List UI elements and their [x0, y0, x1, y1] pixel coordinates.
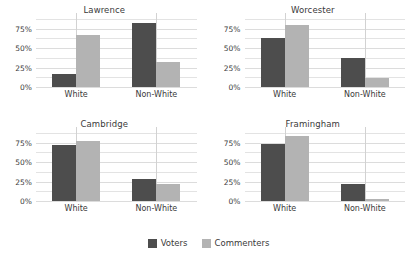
x-tick-label: Non-White: [344, 90, 386, 99]
bars: [245, 133, 406, 201]
bar-voters-white: [52, 74, 76, 87]
y-tick-label: 0%: [20, 197, 32, 206]
bar-voters-non-white: [132, 23, 156, 87]
bar-voters-non-white: [341, 184, 365, 201]
y-tick-label: 0%: [229, 197, 241, 206]
y-tick-label: 25%: [224, 177, 241, 186]
facet-cambridge: Cambridge0%25%50%75%WhiteNon-White: [0, 114, 209, 228]
plot-area: [36, 19, 197, 87]
bars: [36, 133, 197, 201]
y-tick-label: 50%: [224, 158, 241, 167]
y-axis: 0%25%50%75%: [209, 133, 241, 201]
gridline: [245, 201, 406, 202]
facet-title: Worcester: [209, 5, 417, 15]
bar-commenters-non-white: [365, 78, 389, 87]
y-axis: 0%25%50%75%: [209, 19, 241, 87]
y-tick-label: 50%: [224, 44, 241, 53]
x-tick-label: White: [273, 90, 296, 99]
facet-framingham: Framingham0%25%50%75%WhiteNon-White: [209, 114, 417, 228]
bar-voters-white: [261, 144, 285, 202]
x-tick-label: Non-White: [135, 90, 177, 99]
legend-label: Commenters: [215, 238, 270, 248]
y-axis: 0%25%50%75%: [0, 19, 32, 87]
legend-swatch-voters: [148, 239, 157, 248]
facet-worcester: Worcester0%25%50%75%WhiteNon-White: [209, 0, 417, 114]
bar-commenters-non-white: [365, 199, 389, 201]
legend-item-commenters: Commenters: [202, 238, 270, 248]
facet-title: Cambridge: [0, 119, 209, 129]
legend-item-voters: Voters: [148, 238, 188, 248]
category-separator: [365, 127, 366, 201]
bar-commenters-white: [285, 136, 309, 201]
legend-swatch-commenters: [202, 239, 211, 248]
bar-commenters-white: [285, 25, 309, 87]
facet-title: Lawrence: [0, 5, 209, 15]
y-tick-label: 75%: [15, 24, 32, 33]
bars: [36, 19, 197, 87]
bar-voters-non-white: [341, 58, 365, 87]
legend-label: Voters: [161, 238, 188, 248]
gridline: [36, 201, 197, 202]
bar-voters-white: [261, 38, 285, 87]
gridline: [36, 87, 197, 88]
y-tick-label: 25%: [15, 63, 32, 72]
bar-commenters-non-white: [156, 184, 180, 201]
bar-commenters-white: [76, 141, 100, 201]
x-tick-label: White: [273, 204, 296, 213]
y-axis: 0%25%50%75%: [0, 133, 32, 201]
y-tick-label: 50%: [15, 158, 32, 167]
y-tick-label: 0%: [20, 83, 32, 92]
x-tick-label: White: [64, 90, 87, 99]
y-tick-label: 75%: [224, 24, 241, 33]
plot-area: [245, 19, 406, 87]
y-tick-label: 25%: [15, 177, 32, 186]
y-tick-label: 50%: [15, 44, 32, 53]
y-tick-label: 75%: [15, 138, 32, 147]
facet-grid: Lawrence0%25%50%75%WhiteNon-WhiteWorcest…: [0, 0, 417, 228]
x-tick-label: Non-White: [344, 204, 386, 213]
y-tick-label: 75%: [224, 138, 241, 147]
x-tick-label: White: [64, 204, 87, 213]
bar-voters-white: [52, 145, 76, 201]
faceted-bar-chart: Lawrence0%25%50%75%WhiteNon-WhiteWorcest…: [0, 0, 417, 254]
category-separator: [365, 13, 366, 87]
y-tick-label: 0%: [229, 83, 241, 92]
bar-commenters-non-white: [156, 62, 180, 87]
bar-commenters-white: [76, 35, 100, 87]
bar-voters-non-white: [132, 179, 156, 201]
facet-title: Framingham: [209, 119, 417, 129]
x-tick-label: Non-White: [135, 204, 177, 213]
plot-area: [245, 133, 406, 201]
plot-area: [36, 133, 197, 201]
facet-lawrence: Lawrence0%25%50%75%WhiteNon-White: [0, 0, 209, 114]
bars: [245, 19, 406, 87]
chart-legend: VotersCommenters: [0, 238, 417, 248]
gridline: [245, 87, 406, 88]
y-tick-label: 25%: [224, 63, 241, 72]
